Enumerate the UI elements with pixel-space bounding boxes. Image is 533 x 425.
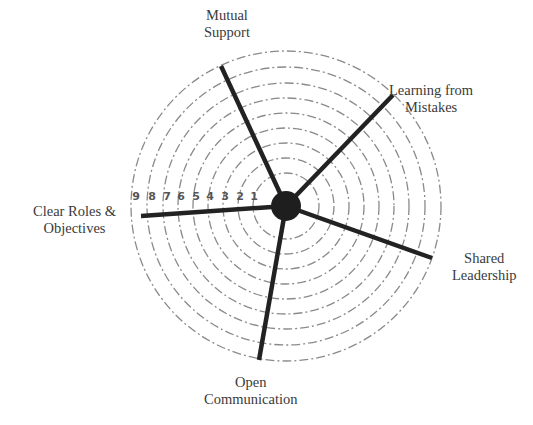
label-line: Objectives bbox=[33, 220, 116, 237]
label-line: Support bbox=[204, 24, 250, 41]
scale-number: 3 bbox=[221, 190, 229, 203]
spoke-shared-leadership bbox=[286, 206, 432, 258]
label-line: Shared bbox=[452, 250, 516, 267]
label-open-communication: Open Communication bbox=[204, 374, 297, 408]
label-line: Clear Roles & bbox=[33, 203, 116, 220]
center-hub bbox=[271, 191, 301, 221]
label-line: Learning from bbox=[389, 82, 473, 99]
label-shared-leadership: Shared Leadership bbox=[452, 250, 516, 284]
label-clear-roles-objectives: Clear Roles & Objectives bbox=[33, 203, 116, 237]
label-mutual-support: Mutual Support bbox=[204, 7, 250, 41]
label-line: Leadership bbox=[452, 267, 516, 284]
label-line: Mistakes bbox=[389, 99, 473, 116]
scale-number: 8 bbox=[148, 190, 156, 203]
scale-number: 5 bbox=[192, 190, 200, 203]
scale-number: 2 bbox=[236, 190, 244, 203]
scale-number: 4 bbox=[206, 190, 214, 203]
label-line: Open bbox=[204, 374, 297, 391]
label-line: Mutual bbox=[204, 7, 250, 24]
scale-number: 1 bbox=[250, 190, 258, 203]
scale-number: 7 bbox=[163, 190, 171, 203]
label-line: Communication bbox=[204, 391, 297, 408]
scale-number: 6 bbox=[177, 190, 185, 203]
scale-numbers: 987654321 bbox=[132, 190, 258, 203]
label-learning-from-mistakes: Learning from Mistakes bbox=[389, 82, 473, 116]
spoke-open-communication bbox=[259, 206, 286, 360]
scale-number: 9 bbox=[132, 190, 140, 203]
team-wheel-diagram: 987654321 Mutual Support Learning from M… bbox=[0, 0, 533, 425]
